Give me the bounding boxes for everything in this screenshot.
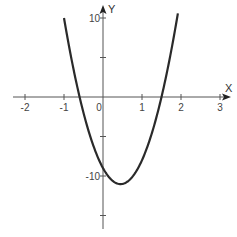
ticks bbox=[25, 18, 220, 216]
x-tick-label: 2 bbox=[178, 102, 184, 113]
y-tick-label: -10 bbox=[86, 171, 101, 182]
x-tick-label: -1 bbox=[60, 102, 69, 113]
axes: XY bbox=[13, 3, 233, 229]
origin-label: 0 bbox=[96, 102, 102, 113]
x-tick-label: -2 bbox=[21, 102, 30, 113]
y-tick-label: 10 bbox=[89, 13, 101, 24]
parabola-curve bbox=[64, 13, 178, 184]
y-axis-label: Y bbox=[108, 3, 116, 15]
x-tick-label: 1 bbox=[139, 102, 145, 113]
x-tick-label: 3 bbox=[217, 102, 223, 113]
parabola-chart: XY -2-1123010-10 bbox=[0, 0, 237, 237]
x-axis-label: X bbox=[225, 82, 233, 94]
